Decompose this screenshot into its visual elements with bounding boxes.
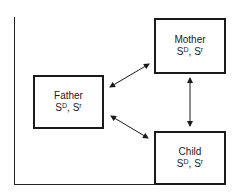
- node-father-name: Father: [54, 90, 83, 102]
- node-child: Child SD, Sr: [154, 131, 226, 185]
- node-mother: Mother SD, Sr: [154, 18, 226, 74]
- node-mother-name: Mother: [174, 34, 205, 46]
- node-father: Father SD, Sr: [33, 75, 104, 129]
- node-mother-stats: SD, Sr: [177, 46, 203, 58]
- node-child-stats: SD, Sr: [177, 158, 203, 170]
- node-child-name: Child: [179, 146, 202, 158]
- node-father-stats: SD, Sr: [55, 102, 81, 114]
- arrow-father-child: [111, 116, 148, 138]
- arrow-father-mother: [110, 64, 149, 87]
